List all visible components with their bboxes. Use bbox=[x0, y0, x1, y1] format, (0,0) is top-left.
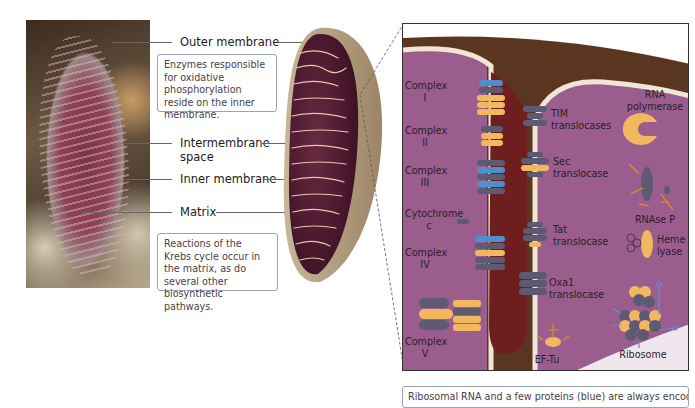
label-tim-line1: TIM bbox=[551, 108, 611, 120]
leader-line-matrix bbox=[82, 212, 172, 213]
label-cytochrome-c-line1: Cytochrome bbox=[405, 208, 453, 220]
callout-oxidative-phosphorylation: Enzymes responsible for oxidative phosph… bbox=[157, 54, 277, 112]
cristae-texture bbox=[32, 33, 137, 279]
label-complex-iv-line1: Complex bbox=[405, 247, 445, 259]
zoom-guide-lines bbox=[300, 20, 410, 380]
label-complex-i: Complex I bbox=[405, 80, 445, 104]
leader-line-outer-membrane bbox=[112, 42, 172, 43]
label-heme-lyase-line1: Heme bbox=[657, 234, 685, 246]
complex-i-icon bbox=[477, 80, 505, 115]
label-complex-v: Complex V bbox=[405, 336, 445, 360]
label-oxa1-translocase: Oxa1 translocase bbox=[549, 277, 604, 301]
label-complex-ii: Complex II bbox=[405, 125, 445, 149]
leader-line-intermembrane bbox=[122, 143, 172, 144]
label-tat-line2: translocase bbox=[553, 236, 608, 248]
label-inner-membrane: Inner membrane bbox=[180, 172, 276, 186]
label-ribosome: Ribosome bbox=[613, 349, 673, 361]
callout-krebs-cycle: Reactions of the Krebs cycle occur in th… bbox=[157, 233, 278, 291]
label-rna-polymerase-line2: polymerase bbox=[625, 101, 685, 113]
label-complex-i-line1: Complex bbox=[405, 80, 445, 92]
label-complex-iv-line2: IV bbox=[405, 259, 445, 271]
label-oxa1-line2: translocase bbox=[549, 289, 604, 301]
label-rna-polymerase-line1: RNA bbox=[625, 89, 685, 101]
label-cytochrome-c: Cytochrome c bbox=[405, 208, 453, 232]
label-tim-line2: translocases bbox=[551, 120, 611, 132]
label-tim-translocases: TIM translocases bbox=[551, 108, 611, 132]
callout-ribosomal-rna: Ribosomal RNA and a few proteins (blue) … bbox=[402, 386, 689, 408]
label-matrix: Matrix bbox=[180, 205, 216, 219]
label-complex-v-line1: Complex bbox=[405, 336, 445, 348]
label-rnase-p: RNAse P bbox=[625, 214, 685, 226]
label-complex-v-line2: V bbox=[405, 348, 445, 360]
label-sec-translocase: Sec translocase bbox=[553, 156, 608, 180]
label-tat-translocase: Tat translocase bbox=[553, 224, 608, 248]
label-intermembrane-space-1: Intermembrane bbox=[180, 136, 270, 150]
label-complex-iii: Complex III bbox=[405, 165, 445, 189]
label-outer-membrane: Outer membrane bbox=[180, 35, 279, 49]
label-complex-iii-line2: III bbox=[405, 177, 445, 189]
leader-line-inner-membrane bbox=[124, 179, 172, 180]
label-complex-ii-line1: Complex bbox=[405, 125, 445, 137]
label-complex-i-line2: I bbox=[405, 92, 445, 104]
label-complex-iii-line1: Complex bbox=[405, 165, 445, 177]
detail-panel-background bbox=[403, 24, 689, 371]
label-complex-ii-line2: II bbox=[405, 137, 445, 149]
label-oxa1-line1: Oxa1 bbox=[549, 277, 604, 289]
label-sec-line1: Sec bbox=[553, 156, 608, 168]
label-heme-lyase: Heme lyase bbox=[657, 234, 685, 258]
label-heme-lyase-line2: lyase bbox=[657, 246, 685, 258]
micrograph-image bbox=[26, 20, 150, 288]
label-ef-tu: EF-Tu bbox=[527, 354, 567, 366]
label-intermembrane-space-2: space bbox=[180, 150, 214, 164]
label-cytochrome-c-line2: c bbox=[405, 220, 453, 232]
detail-panel: Complex I Complex II Complex III Cytochr… bbox=[402, 23, 689, 371]
label-complex-iv: Complex IV bbox=[405, 247, 445, 271]
label-tat-line1: Tat bbox=[553, 224, 608, 236]
label-sec-line2: translocase bbox=[553, 168, 608, 180]
label-rna-polymerase: RNA polymerase bbox=[625, 89, 685, 113]
